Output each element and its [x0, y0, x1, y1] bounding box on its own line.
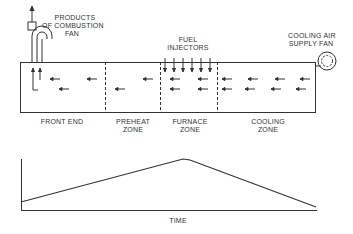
zone-label-line2: ZONE — [113, 126, 153, 134]
zone-label-line1: COOLING — [248, 118, 288, 126]
temperature-graph — [21, 159, 317, 211]
zone-label-line1: FRONT END — [38, 118, 86, 126]
exhaust-fan-label: PRODUCTS OF COMBUSTION FAN — [50, 14, 100, 38]
exhaust-fan-label-line2: OF COMBUSTION — [42, 22, 100, 30]
zone-label-line1: PREHEAT — [113, 118, 153, 126]
exhaust-fan-label-line1: PRODUCTS — [50, 14, 100, 22]
zone-label-furnace: FURNACE ZONE — [170, 118, 210, 134]
graph-x-label: TIME — [160, 217, 196, 225]
cooling-fan-label-line2: SUPPLY FAN — [288, 40, 334, 48]
temperature-curve — [21, 159, 316, 207]
exhaust-flow-arrows — [32, 68, 42, 90]
fuel-injectors-label-line2: INJECTORS — [165, 44, 211, 52]
air-flow-arrows — [50, 78, 310, 91]
zone-label-line1: FURNACE — [170, 118, 210, 126]
zone-label-line2: ZONE — [170, 126, 210, 134]
cooling-fan-label: COOLING AIR SUPPLY FAN — [288, 32, 334, 48]
furnace-body — [21, 63, 316, 113]
zone-label-cooling: COOLING ZONE — [248, 118, 288, 134]
zone-label-preheat: PREHEAT ZONE — [113, 118, 153, 134]
exhaust-fan-label-line3: FAN — [44, 30, 100, 38]
cooling-fan-icon — [315, 52, 336, 70]
zone-label-front-end: FRONT END — [38, 118, 86, 126]
cooling-fan-label-line1: COOLING AIR — [288, 32, 334, 40]
fuel-injectors-label: FUEL INJECTORS — [165, 36, 211, 52]
zone-label-line2: ZONE — [248, 126, 288, 134]
fuel-injector-arrows — [164, 58, 212, 72]
fuel-injectors-label-line1: FUEL — [165, 36, 211, 44]
